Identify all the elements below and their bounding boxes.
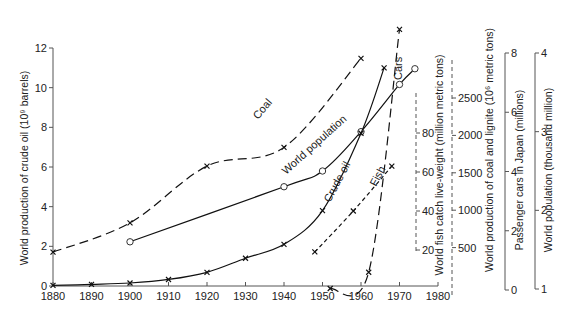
fish-axis-title: World fish catch live-weight (million me… bbox=[433, 55, 445, 276]
marker-x bbox=[389, 164, 394, 169]
oil-axis-title: World production of crude oil (10⁹ barre… bbox=[18, 71, 30, 266]
pop-axis-title: World population (thousand million) bbox=[542, 88, 554, 252]
oil-tick-label: 12 bbox=[35, 42, 47, 54]
marker-circle bbox=[412, 66, 418, 72]
cars-tick-label: 8 bbox=[511, 47, 517, 59]
pop-tick-label: 4 bbox=[541, 47, 547, 59]
coal-tick-label: 2500 bbox=[458, 92, 482, 104]
marker-circle bbox=[396, 81, 402, 87]
coal-tick-label: 2000 bbox=[458, 129, 482, 141]
oil-tick-label: 8 bbox=[41, 121, 47, 133]
marker-x bbox=[205, 164, 210, 169]
series-coal bbox=[53, 58, 361, 252]
coal-axis-title: World production of coal and lignite (10… bbox=[483, 28, 495, 272]
coal-tick-label: 1000 bbox=[458, 204, 482, 216]
label-coal: Coal bbox=[250, 96, 274, 121]
x-tick-label: 1980 bbox=[426, 290, 450, 302]
marker-x bbox=[320, 208, 325, 213]
cars-axis-title: Passenger cars in Japan (millions) bbox=[513, 90, 525, 250]
x-tick-label: 1970 bbox=[387, 290, 411, 302]
x-tick-label: 1890 bbox=[79, 290, 103, 302]
oil-tick-label: 6 bbox=[41, 161, 47, 173]
x-tick-label: 1900 bbox=[118, 290, 142, 302]
marker-x bbox=[282, 145, 287, 150]
x-tick-label: 1910 bbox=[156, 290, 180, 302]
chart: 1880189019001910192019301940195019601970… bbox=[0, 0, 575, 325]
marker-circle bbox=[127, 239, 133, 245]
oil-tick-label: 4 bbox=[41, 201, 47, 213]
coal-tick-label: 1500 bbox=[458, 167, 482, 179]
oil-tick-label: 2 bbox=[41, 240, 47, 252]
x-tick-label: 1950 bbox=[310, 290, 334, 302]
x-tick-label: 1960 bbox=[349, 290, 373, 302]
marker-x bbox=[312, 249, 317, 254]
series-world-population bbox=[130, 69, 415, 242]
oil-tick-label: 0 bbox=[41, 280, 47, 292]
label-crude-oil: Crude oil bbox=[321, 159, 352, 204]
marker-x bbox=[128, 220, 133, 225]
coal-tick-label: 500 bbox=[458, 242, 476, 254]
marker-x bbox=[351, 209, 356, 214]
cars-tick-label: 0 bbox=[511, 284, 517, 296]
x-tick-label: 1930 bbox=[233, 290, 257, 302]
pop-tick-label: 1 bbox=[541, 283, 547, 295]
x-tick-label: 1940 bbox=[272, 290, 296, 302]
marker-circle bbox=[319, 168, 325, 174]
x-tick-label: 1920 bbox=[195, 290, 219, 302]
marker-circle bbox=[281, 184, 287, 190]
series-lines bbox=[51, 27, 419, 296]
marker-x bbox=[359, 56, 364, 61]
label-cars: Cars bbox=[392, 56, 404, 80]
marker-x bbox=[282, 242, 287, 247]
oil-tick-label: 10 bbox=[35, 82, 47, 94]
marker-x bbox=[366, 270, 371, 275]
